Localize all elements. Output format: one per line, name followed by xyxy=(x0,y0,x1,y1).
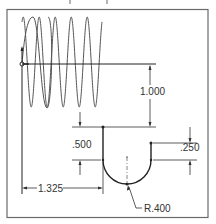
drawing-canvas: 1.000 .500 .250 1.325 xyxy=(0,0,216,224)
dimension-text-500: .500 xyxy=(72,139,92,150)
dimension-text-250: .250 xyxy=(180,142,200,153)
radius-leader[interactable] xyxy=(127,185,142,208)
dimension-text-radius: R.400 xyxy=(144,203,171,214)
arc-center-point xyxy=(126,156,128,158)
sine-wave-polyline[interactable] xyxy=(22,17,102,107)
top-ticks xyxy=(70,0,107,4)
dimension-text-1000: 1.000 xyxy=(140,86,165,97)
dimension-text-1325: 1.325 xyxy=(38,183,63,194)
